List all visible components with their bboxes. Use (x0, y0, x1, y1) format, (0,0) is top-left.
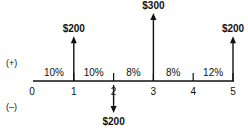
period-label: 0 (29, 86, 35, 97)
period-label: 1 (71, 86, 77, 97)
period-label: 3 (151, 86, 157, 97)
interest-rate-label: 8% (126, 67, 141, 78)
cash-flow-arrow: $200 (102, 85, 125, 127)
cash-flow-arrow: $200 (222, 23, 245, 81)
cash-flow-arrow: $300 (142, 0, 165, 81)
interest-rate-label: 10% (44, 67, 64, 78)
positive-sign-label: (+) (6, 58, 17, 68)
cash-flow-label: $300 (142, 0, 165, 11)
cash-flow-label: $200 (63, 23, 86, 34)
cash-flow-label: $200 (102, 116, 125, 127)
interest-rate-label: 8% (166, 67, 181, 78)
arrow-up-icon (230, 36, 236, 43)
interest-rate-label: 10% (84, 67, 104, 78)
period-label: 5 (230, 86, 236, 97)
cash-flow-label: $200 (222, 23, 245, 34)
cash-flow-arrow: $200 (63, 23, 86, 81)
cash-flow-diagram: (+) (–) 012345 10%10%8%8%12% $200$200$30… (0, 0, 248, 140)
interest-rate-label: 12% (203, 67, 223, 78)
arrow-up-icon (71, 36, 77, 43)
arrow-down-icon (111, 106, 117, 113)
arrow-up-icon (150, 13, 156, 20)
period-label: 4 (190, 86, 196, 97)
negative-sign-label: (–) (6, 102, 17, 112)
